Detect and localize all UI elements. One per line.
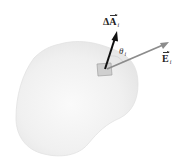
- field-vector-label: Ei: [162, 54, 171, 65]
- surface-element-patch: [97, 63, 112, 76]
- area-vector-label: ΔAi: [103, 17, 119, 28]
- theta-symbol: θ: [119, 46, 123, 56]
- angle-label: θi: [119, 47, 126, 57]
- field-vector-arrowhead: [160, 42, 169, 49]
- angle-subscript: i: [124, 51, 126, 57]
- field-symbol: E: [162, 54, 169, 64]
- area-subscript: i: [118, 22, 120, 28]
- gauss-surface-diagram: [0, 0, 183, 165]
- area-vector-arrowhead: [112, 31, 119, 42]
- field-subscript: i: [170, 59, 172, 65]
- area-symbol: A: [109, 17, 116, 27]
